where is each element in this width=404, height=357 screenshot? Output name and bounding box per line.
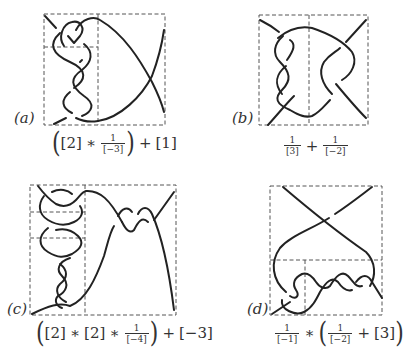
- fraction: 1 [−1]: [275, 323, 299, 344]
- formula-a: ( [2] ∗ 1 [−3] ) + [1]: [52, 132, 177, 154]
- operator: +: [306, 137, 319, 155]
- panel-label-a: (a): [14, 109, 35, 127]
- operator: +: [162, 324, 175, 342]
- operator: +: [139, 134, 152, 152]
- fraction: 1 [−2]: [328, 323, 352, 344]
- paren-close: ): [126, 129, 135, 157]
- formula-b: 1 [3] + 1 [−2]: [283, 135, 349, 156]
- term: [2]: [84, 324, 105, 342]
- term: [2]: [45, 324, 66, 342]
- tangle-c: [30, 185, 176, 315]
- fraction: 1 [−3]: [101, 133, 125, 154]
- paren-close: ): [395, 319, 404, 347]
- tangle-b: [259, 15, 368, 125]
- panel-label-c: (c): [7, 300, 27, 318]
- tangle-a: [44, 14, 165, 125]
- paren-close: ): [150, 319, 159, 347]
- term: [1]: [156, 134, 177, 152]
- operator: +: [357, 324, 370, 342]
- paren-open: (: [36, 319, 45, 347]
- term: [2]: [61, 134, 82, 152]
- tangle-c-box: [30, 185, 176, 315]
- term: [−3]: [179, 324, 213, 342]
- paren-open: (: [319, 319, 328, 347]
- operator: ∗: [109, 324, 119, 342]
- term: [3]: [374, 324, 395, 342]
- operator: ∗: [86, 134, 96, 152]
- fraction: 1 [−2]: [323, 135, 347, 156]
- panel-label-d: (d): [247, 300, 268, 318]
- fraction: 1 [−4]: [125, 323, 149, 344]
- panel-label-b: (b): [232, 109, 253, 127]
- fraction: 1 [3]: [284, 135, 301, 156]
- tangle-d: [270, 186, 382, 315]
- formula-d: 1 [−1] ∗ ( 1 [−2] + [3] ): [274, 322, 404, 344]
- operator: ∗: [70, 324, 80, 342]
- formula-c: ( [2] ∗ [2] ∗ 1 [−4] ) + [−3]: [36, 322, 213, 344]
- paren-open: (: [52, 129, 61, 157]
- operator: ∗: [304, 324, 314, 342]
